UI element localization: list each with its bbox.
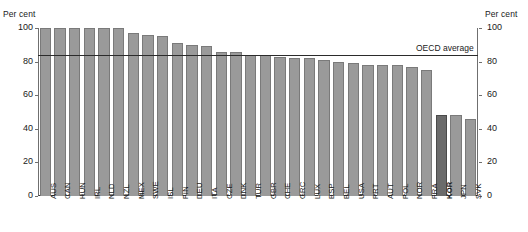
x-axis-label-svk: SVK <box>474 167 483 199</box>
y-axis-tick-label-left-100: 100 <box>3 23 33 32</box>
y-axis-tick-label-right-20: 20 <box>487 157 517 166</box>
x-axis-label-cze: CZE <box>225 167 234 199</box>
x-axis-label-pol: POL <box>401 167 410 199</box>
y-axis-tick-label-right-80: 80 <box>487 57 517 66</box>
x-axis-label-esp: ESP <box>327 167 336 199</box>
x-axis-label-gbr: GBR <box>269 167 278 199</box>
x-axis-label-bel: BEL <box>342 167 351 199</box>
y-axis-unit-label-right: Per cent <box>485 9 517 19</box>
y-axis-tick-label-right-40: 40 <box>487 124 517 133</box>
x-axis-label-swe: SWE <box>151 167 160 199</box>
y-axis-tick-mark-left-0 <box>35 196 38 197</box>
x-axis-label-fra: FRA <box>430 167 439 199</box>
oecd-average-line <box>38 55 478 56</box>
y-axis-unit-label-left: Per cent <box>3 9 35 19</box>
x-axis-label-deu: DEU <box>195 167 204 199</box>
x-axis-label-isl: ISL <box>166 167 175 199</box>
x-axis-label-ita: ITA <box>210 167 219 199</box>
bar-chart: Per cent Per cent 1001008080606040402020… <box>0 0 528 232</box>
y-axis-tick-label-left-40: 40 <box>3 124 33 133</box>
y-axis-tick-mark-right-100 <box>479 28 482 29</box>
x-axis-label-kor: KOR <box>445 167 454 199</box>
x-axis-label-can: CAN <box>63 167 72 199</box>
x-axis-label-nor: NOR <box>415 167 424 199</box>
x-axis-label-aus: AUS <box>49 167 58 199</box>
y-axis-tick-mark-right-80 <box>479 62 482 63</box>
x-axis-label-usa: USA <box>357 167 366 199</box>
x-axis-label-hun: HUN <box>78 167 87 199</box>
x-axis-label-che: CHE <box>283 167 292 199</box>
x-axis-label-irl: IRL <box>93 167 102 199</box>
y-axis-tick-label-left-80: 80 <box>3 57 33 66</box>
y-axis-tick-label-left-20: 20 <box>3 157 33 166</box>
y-axis-tick-label-right-100: 100 <box>487 23 517 32</box>
y-axis-tick-mark-right-60 <box>479 95 482 96</box>
x-axis-label-aut: AUT <box>386 167 395 199</box>
y-axis-tick-label-right-0: 0 <box>487 191 517 200</box>
x-axis-label-grc: GRC <box>298 167 307 199</box>
x-axis-label-prt: PRT <box>371 167 380 199</box>
x-axis-label-mex: MEX <box>137 167 146 199</box>
x-axis-label-fin: FIN <box>181 167 190 199</box>
oecd-average-label: OECD average <box>416 43 474 53</box>
x-axis-label-lux: LUX <box>313 167 322 199</box>
x-axis-label-nzl: NZL <box>122 167 131 199</box>
y-axis-tick-label-left-0: 0 <box>3 191 33 200</box>
x-axis-label-dnk: DNK <box>239 167 248 199</box>
y-axis-tick-label-left-60: 60 <box>3 90 33 99</box>
x-axis-label-nld: NLD <box>107 167 116 199</box>
y-axis-tick-mark-right-40 <box>479 129 482 130</box>
x-axis-label-jpn: JPN <box>459 167 468 199</box>
y-axis-tick-label-right-60: 60 <box>487 90 517 99</box>
x-axis-label-tur: TUR <box>254 167 263 199</box>
y-axis-tick-mark-right-20 <box>479 162 482 163</box>
